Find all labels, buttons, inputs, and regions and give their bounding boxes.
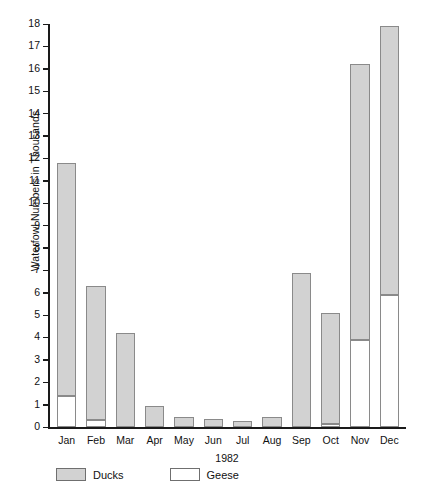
white-filled-swatch	[170, 468, 200, 481]
x-tick-label-apr: Apr	[140, 434, 169, 446]
y-tick-label: 1	[34, 398, 40, 410]
y-tick-label: 16	[28, 62, 40, 74]
bar-group[interactable]	[57, 163, 76, 427]
y-tick-label: 4	[34, 330, 40, 342]
y-tick-label: 3	[34, 353, 40, 365]
bar-segment-ducks[interactable]	[350, 64, 369, 339]
bar-segment-geese[interactable]	[57, 396, 76, 427]
bar-segment-ducks[interactable]	[57, 163, 76, 396]
bar-group[interactable]	[145, 406, 164, 427]
bar-segment-geese[interactable]	[380, 295, 399, 427]
bar-segment-ducks[interactable]	[292, 273, 311, 427]
bar-group[interactable]	[233, 421, 252, 427]
y-tick-label: 13	[28, 129, 40, 141]
y-tick-label: 18	[28, 17, 40, 29]
bar-group[interactable]	[174, 417, 193, 427]
y-tick-label: 2	[34, 375, 40, 387]
plot-area: 0123456789101112131415161718 JanFebMarAp…	[48, 24, 406, 429]
bar-segment-ducks[interactable]	[86, 286, 105, 420]
y-tick-mark	[43, 158, 48, 159]
y-tick-label: 11	[29, 174, 40, 186]
x-axis-title: 1982	[48, 452, 406, 464]
y-tick-label: 0	[34, 420, 40, 432]
legend-item-ducks[interactable]: Ducks	[56, 468, 124, 481]
bar-segment-ducks[interactable]	[174, 417, 193, 427]
legend-item-label: Ducks	[93, 469, 124, 481]
x-tick-label-sep: Sep	[287, 434, 316, 446]
bar-group[interactable]	[86, 286, 105, 427]
bar-segment-geese[interactable]	[321, 424, 340, 427]
y-tick-mark	[43, 315, 48, 316]
y-tick-label: 6	[34, 286, 40, 298]
y-tick-label: 14	[28, 107, 40, 119]
y-tick-mark	[43, 68, 48, 69]
x-tick-label-mar: Mar	[111, 434, 140, 446]
x-axis-line	[48, 427, 406, 429]
x-tick-label-dec: Dec	[375, 434, 404, 446]
waterfowl-bar-chart: Waterfowl Numbers in Thousands 012345678…	[0, 0, 421, 500]
y-tick-mark	[43, 203, 48, 204]
x-tick-label-aug: Aug	[257, 434, 286, 446]
x-tick-label-may: May	[169, 434, 198, 446]
y-axis-line	[48, 24, 50, 429]
y-tick-mark	[43, 113, 48, 114]
bar-segment-ducks[interactable]	[262, 417, 281, 427]
y-tick-mark	[43, 46, 48, 47]
bar-segment-geese[interactable]	[350, 340, 369, 427]
x-tick-label-oct: Oct	[316, 434, 345, 446]
y-tick-mark	[43, 292, 48, 293]
bar-segment-ducks[interactable]	[233, 421, 252, 427]
bar-group[interactable]	[321, 313, 340, 427]
bar-segment-ducks[interactable]	[380, 26, 399, 295]
bar-segment-ducks[interactable]	[145, 406, 164, 427]
y-tick-mark	[43, 24, 48, 25]
x-tick-label-feb: Feb	[81, 434, 110, 446]
y-tick-mark	[43, 382, 48, 383]
y-tick-mark	[43, 404, 48, 405]
y-tick-label: 8	[34, 241, 40, 253]
legend-item-label: Geese	[207, 469, 239, 481]
bar-segment-ducks[interactable]	[204, 419, 223, 427]
chart-legend: DucksGeese	[56, 468, 239, 481]
y-tick-mark	[43, 91, 48, 92]
bar-group[interactable]	[262, 417, 281, 427]
y-tick-mark	[43, 337, 48, 338]
y-tick-mark	[43, 270, 48, 271]
bar-segment-geese[interactable]	[86, 420, 105, 427]
bar-segment-ducks[interactable]	[116, 333, 135, 427]
y-tick-label: 7	[34, 263, 40, 275]
y-tick-label: 10	[28, 196, 40, 208]
y-tick-label: 15	[28, 84, 40, 96]
legend-item-geese[interactable]: Geese	[170, 468, 239, 481]
bar-segment-ducks[interactable]	[321, 313, 340, 424]
y-axis-title: Waterfowl Numbers in Thousands	[29, 61, 41, 321]
y-tick-mark	[43, 225, 48, 226]
y-tick-label: 5	[34, 308, 40, 320]
y-tick-label: 12	[28, 151, 40, 163]
y-tick-mark	[43, 135, 48, 136]
y-tick-mark	[43, 247, 48, 248]
bar-group[interactable]	[292, 273, 311, 427]
gray-filled-swatch	[56, 468, 86, 481]
x-tick-label-jan: Jan	[52, 434, 81, 446]
y-tick-mark	[43, 427, 48, 428]
y-tick-mark	[43, 359, 48, 360]
bar-group[interactable]	[116, 333, 135, 427]
x-tick-label-nov: Nov	[345, 434, 374, 446]
x-tick-label-jul: Jul	[228, 434, 257, 446]
bar-group[interactable]	[380, 26, 399, 427]
y-tick-label: 9	[34, 219, 40, 231]
y-tick-mark	[43, 180, 48, 181]
bar-group[interactable]	[350, 64, 369, 427]
bar-group[interactable]	[204, 419, 223, 427]
x-tick-label-jun: Jun	[199, 434, 228, 446]
y-tick-label: 17	[28, 39, 40, 51]
